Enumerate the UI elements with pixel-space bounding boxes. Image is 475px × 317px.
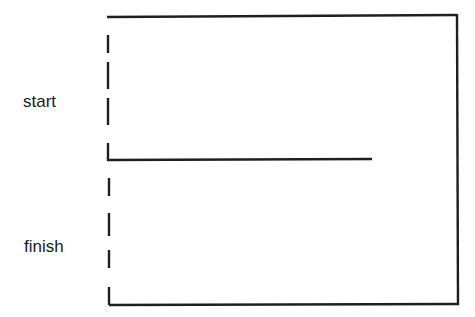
right-line <box>457 14 458 305</box>
diagram-canvas: start finish <box>0 0 475 317</box>
bottom-line <box>109 304 459 305</box>
top-line <box>107 15 457 17</box>
middle-line <box>108 143 372 160</box>
diagram-svg <box>0 0 475 317</box>
start-label: start <box>23 93 56 110</box>
finish-label: finish <box>24 238 64 255</box>
